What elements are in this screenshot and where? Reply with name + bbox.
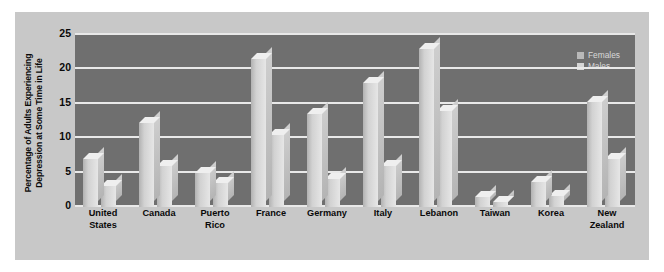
x-tick-label-line: Korea bbox=[523, 208, 579, 220]
x-tick-label-line: Zealand bbox=[579, 220, 635, 232]
x-tick-label: UnitedStates bbox=[75, 208, 131, 231]
bar-side-face bbox=[322, 102, 328, 201]
x-tick-label-line: United bbox=[75, 208, 131, 220]
x-tick-label-line: Lebanon bbox=[411, 208, 467, 220]
bar-side-face bbox=[154, 111, 160, 201]
bar-group bbox=[75, 35, 131, 207]
bar-side-face bbox=[284, 123, 290, 201]
bar-group bbox=[187, 35, 243, 207]
x-tick-label-line: Italy bbox=[355, 208, 411, 220]
y-tick-label: 5 bbox=[41, 165, 71, 177]
legend-item: Males bbox=[577, 61, 620, 71]
legend-swatch-females bbox=[577, 52, 584, 59]
bar-females bbox=[419, 49, 434, 207]
bar-group bbox=[523, 35, 579, 207]
x-tick-label-line: Canada bbox=[131, 208, 187, 220]
bars-layer bbox=[75, 35, 635, 207]
x-tick-label: NewZealand bbox=[579, 208, 635, 231]
x-tick-label: Italy bbox=[355, 208, 411, 220]
chart-legend: FemalesMales bbox=[573, 46, 626, 75]
bar-group bbox=[299, 35, 355, 207]
bar-group bbox=[243, 35, 299, 207]
bar-side-face bbox=[228, 171, 234, 201]
x-tick-label: Canada bbox=[131, 208, 187, 220]
bar-females bbox=[251, 59, 266, 207]
x-tick-label: France bbox=[243, 208, 299, 220]
x-tick-label-line: Puerto bbox=[187, 208, 243, 220]
y-axis-ticks: 0510152025 bbox=[41, 12, 71, 260]
bar-side-face bbox=[602, 90, 608, 201]
bar-group bbox=[355, 35, 411, 207]
bar-females bbox=[587, 102, 602, 207]
y-axis-title-line-1: Percentage of Adults Experiencing bbox=[23, 14, 34, 232]
bar-females bbox=[363, 83, 378, 207]
legend-item: Females bbox=[577, 50, 620, 60]
bar-group bbox=[411, 35, 467, 207]
legend-label: Females bbox=[588, 50, 620, 60]
plot-area: FemalesMales bbox=[75, 33, 635, 207]
x-axis-labels: UnitedStatesCanadaPuertoRicoFranceGerman… bbox=[75, 208, 635, 242]
bar-side-face bbox=[434, 37, 440, 201]
bar-females bbox=[83, 159, 98, 207]
bar-side-face bbox=[378, 71, 384, 201]
gridline bbox=[75, 67, 635, 69]
chart-figure: Percentage of Adults Experiencing Depres… bbox=[15, 12, 649, 260]
bar-males bbox=[549, 196, 564, 207]
y-tick-label: 15 bbox=[41, 96, 71, 108]
x-tick-label-line: France bbox=[243, 208, 299, 220]
x-tick-label: Taiwan bbox=[467, 208, 523, 220]
x-tick-label: PuertoRico bbox=[187, 208, 243, 231]
x-tick-label-line: New bbox=[579, 208, 635, 220]
bar-females bbox=[307, 114, 322, 207]
y-tick-label: 20 bbox=[41, 61, 71, 73]
bar-top-face bbox=[493, 196, 514, 202]
bar-group bbox=[131, 35, 187, 207]
bar-side-face bbox=[116, 174, 122, 201]
y-tick-label: 25 bbox=[41, 27, 71, 39]
x-tick-label-line: Germany bbox=[299, 208, 355, 220]
bar-side-face bbox=[452, 99, 458, 201]
bar-females bbox=[195, 173, 210, 207]
bar-group bbox=[467, 35, 523, 207]
bar-females bbox=[139, 123, 154, 207]
bar-females bbox=[475, 197, 490, 207]
x-tick-label: Germany bbox=[299, 208, 355, 220]
gridline bbox=[75, 102, 635, 104]
bar-side-face bbox=[266, 47, 272, 201]
y-tick-label: 10 bbox=[41, 130, 71, 142]
x-tick-label-line: Taiwan bbox=[467, 208, 523, 220]
bar-females bbox=[531, 182, 546, 207]
legend-label: Males bbox=[588, 61, 610, 71]
x-tick-label: Korea bbox=[523, 208, 579, 220]
x-tick-label-line: Rico bbox=[187, 220, 243, 232]
bar-males bbox=[493, 202, 508, 208]
x-tick-label: Lebanon bbox=[411, 208, 467, 220]
y-tick-label: 0 bbox=[41, 199, 71, 211]
x-tick-label-line: States bbox=[75, 220, 131, 232]
